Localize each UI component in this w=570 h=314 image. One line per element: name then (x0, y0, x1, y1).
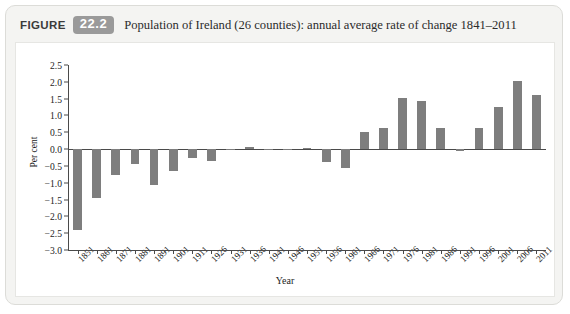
chart-bar (188, 149, 197, 158)
chart-bar (207, 149, 216, 161)
chart-bar (436, 128, 445, 149)
chart-bar (131, 149, 140, 164)
chart-bar (92, 149, 101, 198)
x-axis-tick-label: 1931 (229, 244, 249, 264)
chart-plot-panel: Per cent Year 2.52.01.51.00.50.0−0.5−1.0… (15, 42, 555, 297)
y-axis-tick-label: 1.0 (50, 110, 68, 121)
x-axis-tick-label: 1911 (190, 244, 210, 264)
y-axis-tick-label: −1.0 (45, 177, 68, 188)
chart-bar (475, 128, 484, 149)
x-axis-tick-label: 1936 (248, 244, 268, 264)
chart-bar (494, 107, 503, 149)
x-axis-tick-label: 2001 (496, 244, 516, 264)
x-axis-tick-label: 1966 (362, 244, 382, 264)
x-axis-tick-label: 1926 (209, 244, 229, 264)
x-axis-tick-label: 1986 (439, 244, 459, 264)
chart-bar (417, 101, 426, 149)
x-axis-tick-label: 1976 (401, 244, 421, 264)
x-axis-tick-label: 1951 (305, 244, 325, 264)
figure-label: FIGURE (20, 19, 66, 31)
x-axis-tick-label: 1961 (343, 244, 363, 264)
y-axis-tick-label: 0.0 (50, 144, 68, 155)
figure-title: Population of Ireland (26 counties): ann… (124, 18, 517, 33)
x-axis-baseline (68, 250, 546, 251)
y-axis-tick-label: −2.5 (45, 228, 68, 239)
x-axis-tick-label: 2006 (515, 244, 535, 264)
chart-bar (379, 128, 388, 149)
y-axis-tick-label: −3.0 (45, 245, 68, 256)
x-axis-tick-label: 1981 (420, 244, 440, 264)
x-axis-tick-label: 1871 (114, 244, 134, 264)
chart-axes: 2.52.01.51.00.50.0−0.5−1.0−1.5−2.0−2.5−3… (68, 65, 546, 250)
chart-bar (513, 81, 522, 149)
figure-header: FIGURE 22.2 Population of Ireland (26 co… (6, 6, 562, 44)
figure-number-badge: 22.2 (73, 16, 114, 34)
x-axis-tick-label: 1851 (76, 244, 96, 264)
x-axis-tick-label: 1861 (95, 244, 115, 264)
x-axis-tick-label: 1881 (133, 244, 153, 264)
chart-bar (73, 149, 82, 230)
x-axis-tick-label: 1941 (267, 244, 287, 264)
chart-bar (303, 148, 312, 149)
x-axis-tick-label: 1891 (152, 244, 172, 264)
chart-bar (264, 149, 273, 150)
chart-bar (532, 95, 541, 149)
x-axis-tick-label: 1996 (477, 244, 497, 264)
y-axis-line (68, 65, 69, 250)
chart-bar (226, 149, 235, 150)
figure-card: FIGURE 22.2 Population of Ireland (26 co… (5, 5, 563, 305)
y-axis-tick-label: 1.5 (50, 93, 68, 104)
chart-bar (169, 149, 178, 171)
chart-bar (245, 147, 254, 149)
y-axis-tick-label: 0.5 (50, 127, 68, 138)
y-axis-tick-label: 2.0 (50, 76, 68, 87)
x-axis-tick-label: 1971 (381, 244, 401, 264)
y-axis-tick-label: −0.5 (45, 160, 68, 171)
chart-bar (456, 149, 465, 151)
chart-bar (341, 149, 350, 168)
x-axis-tick-label: 1901 (171, 244, 191, 264)
chart-bar (150, 149, 159, 185)
x-axis-tick-label: 1946 (286, 244, 306, 264)
chart-bar (322, 149, 331, 161)
chart-bar (111, 149, 120, 175)
chart-bar (360, 132, 369, 149)
chart-bar (283, 149, 292, 150)
x-axis-label: Year (16, 275, 554, 286)
y-axis-tick-label: −1.5 (45, 194, 68, 205)
chart-bar (398, 98, 407, 149)
x-axis-tick-label: 2011 (534, 244, 554, 264)
y-axis-tick-label: 2.5 (50, 60, 68, 71)
y-axis-tick-label: −2.0 (45, 211, 68, 222)
x-axis-tick-label: 1956 (324, 244, 344, 264)
x-axis-tick-label: 1991 (458, 244, 478, 264)
y-axis-label: Per cent (29, 120, 39, 184)
